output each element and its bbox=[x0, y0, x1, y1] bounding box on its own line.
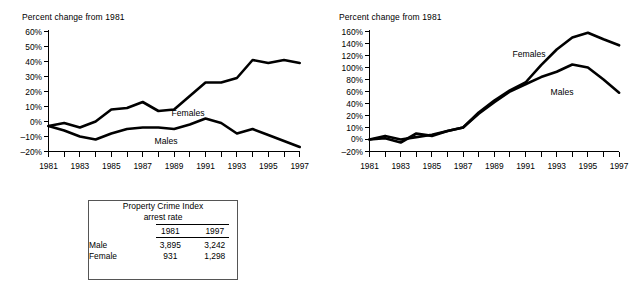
y-tick-label: 0% bbox=[30, 117, 43, 127]
y-tick-marks-right bbox=[365, 32, 370, 152]
series-label-females: Females bbox=[513, 49, 546, 59]
table-col-header-1981: 1981 bbox=[148, 226, 192, 236]
x-tick-label: 1983 bbox=[71, 161, 90, 171]
x-tick-label: 1991 bbox=[516, 161, 535, 171]
y-tick-label: 60% bbox=[346, 87, 363, 97]
table-property-crime: Property Crime Index arrest rate 1981 19… bbox=[88, 200, 238, 280]
series-line-males bbox=[370, 65, 620, 143]
x-tick-label: 1987 bbox=[133, 161, 152, 171]
x-tick-label: 1993 bbox=[228, 161, 247, 171]
y-tick-label: 0% bbox=[351, 134, 364, 144]
y-axis-title-right: Percent change from 1981 bbox=[339, 12, 442, 22]
y-tick-label: 160% bbox=[342, 27, 364, 37]
y-tick-labels-right: 160% 140% 120% 100% 80% 60% 40% 20% 10% … bbox=[342, 27, 364, 157]
series-label-males: Males bbox=[551, 87, 574, 97]
y-tick-label: 20% bbox=[25, 87, 42, 97]
x-tick-labels-left: 1981 1983 1985 1987 1989 1991 1993 1995 … bbox=[39, 161, 309, 171]
y-tick-label: –20% bbox=[21, 147, 43, 157]
y-tick-label: –10% bbox=[21, 132, 43, 142]
stat-table: Property Crime Index arrest rate 1981 19… bbox=[89, 201, 237, 262]
x-tick-label: 1991 bbox=[196, 161, 215, 171]
y-tick-label: 40% bbox=[346, 99, 363, 109]
table-row-label: Female bbox=[89, 251, 148, 262]
chart-aggravated-assault: 160% 140% 120% 100% 80% 60% 40% 20% 10% … bbox=[317, 24, 633, 184]
y-tick-label: 120% bbox=[342, 51, 364, 61]
y-tick-label: 60% bbox=[25, 27, 42, 37]
table-title-line1: Property Crime Index bbox=[89, 201, 237, 212]
x-tick-marks-left bbox=[49, 152, 300, 158]
table-row: Female 931 1,298 bbox=[89, 251, 237, 262]
x-tick-label: 1981 bbox=[39, 161, 58, 171]
series-line-females bbox=[370, 33, 620, 140]
x-tick-label: 1997 bbox=[290, 161, 309, 171]
table-cell-value: 3,895 bbox=[148, 240, 192, 251]
x-tick-labels-right: 1981 1983 1985 1987 1989 1991 1993 1995 … bbox=[360, 161, 629, 171]
series-label-males: Males bbox=[155, 136, 178, 146]
x-tick-label: 1981 bbox=[360, 161, 379, 171]
y-tick-label: 10% bbox=[346, 123, 363, 133]
y-tick-label: 30% bbox=[25, 72, 42, 82]
table-title-line2: arrest rate bbox=[89, 212, 237, 223]
y-tick-labels-left: 60% 50% 40% 30% 20% 10% 0% –10% –20% bbox=[21, 27, 43, 157]
x-tick-label: 1989 bbox=[165, 161, 184, 171]
x-tick-label: 1997 bbox=[610, 161, 629, 171]
x-tick-label: 1995 bbox=[259, 161, 278, 171]
y-tick-label: 140% bbox=[342, 39, 364, 49]
panel-property-crime: Percent change from 1981 60% 50% 40% 30%… bbox=[0, 0, 316, 297]
chart-svg-left: 60% 50% 40% 30% 20% 10% 0% –10% –20% bbox=[0, 24, 316, 184]
y-tick-label: 40% bbox=[25, 57, 42, 67]
y-tick-label: 10% bbox=[25, 102, 42, 112]
y-tick-label: 80% bbox=[346, 75, 363, 85]
x-tick-label: 1987 bbox=[454, 161, 473, 171]
table-cell-value: 931 bbox=[148, 251, 192, 262]
y-tick-label: 20% bbox=[346, 111, 363, 121]
table-cell-value: 1,298 bbox=[193, 251, 237, 262]
y-tick-label: 50% bbox=[25, 42, 42, 52]
y-axis-title-left: Percent change from 1981 bbox=[22, 12, 125, 22]
table-cell-value: 3,242 bbox=[193, 240, 237, 251]
table-corner-cell bbox=[89, 226, 148, 236]
x-tick-marks-right bbox=[370, 152, 620, 158]
y-tick-label: 100% bbox=[342, 63, 364, 73]
y-tick-label: –20% bbox=[342, 147, 364, 157]
figure-root: Percent change from 1981 60% 50% 40% 30%… bbox=[0, 0, 633, 297]
table-row: Male 3,895 3,242 bbox=[89, 240, 237, 251]
x-tick-label: 1985 bbox=[423, 161, 442, 171]
x-tick-label: 1995 bbox=[579, 161, 598, 171]
chart-property-crime: 60% 50% 40% 30% 20% 10% 0% –10% –20% bbox=[0, 24, 316, 184]
panel-aggravated-assault: Percent change from 1981 160% 140% 120% … bbox=[317, 0, 633, 297]
table-row-label: Male bbox=[89, 240, 148, 251]
x-tick-label: 1985 bbox=[102, 161, 121, 171]
chart-svg-right: 160% 140% 120% 100% 80% 60% 40% 20% 10% … bbox=[317, 24, 633, 184]
series-label-females: Females bbox=[172, 108, 205, 118]
x-tick-label: 1983 bbox=[391, 161, 410, 171]
y-tick-marks-left bbox=[44, 32, 49, 152]
x-tick-label: 1993 bbox=[547, 161, 566, 171]
table-col-header-1997: 1997 bbox=[193, 226, 237, 236]
x-tick-label: 1989 bbox=[485, 161, 504, 171]
